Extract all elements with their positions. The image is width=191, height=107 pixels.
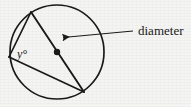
center-point-dot — [54, 49, 60, 55]
angle-label: y° — [16, 47, 27, 61]
diameter-leader-line — [63, 31, 133, 38]
diameter-label: diameter — [138, 23, 184, 38]
diagram-canvas: y° diameter — [0, 0, 191, 107]
geometry-figure: y° diameter — [0, 0, 191, 107]
